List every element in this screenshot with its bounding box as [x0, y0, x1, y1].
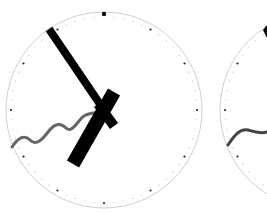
tick-mark: [183, 62, 185, 64]
twelve-marker-icon: [102, 12, 106, 16]
tick-mark: [158, 185, 159, 186]
tick-mark: [94, 202, 95, 203]
tick-mark: [113, 202, 114, 203]
tick-mark: [194, 90, 195, 91]
tick-mark: [196, 119, 197, 120]
tick-mark: [10, 109, 12, 111]
tick-mark: [226, 129, 227, 130]
tick-mark: [149, 28, 151, 30]
tick-mark: [132, 21, 133, 22]
tick-mark: [66, 24, 67, 25]
tick-mark: [11, 119, 12, 120]
tick-mark: [56, 189, 58, 191]
tick-mark: [22, 155, 24, 157]
tick-mark: [255, 179, 256, 180]
tick-mark: [173, 172, 174, 173]
tick-mark: [75, 21, 76, 22]
tick-mark: [66, 194, 67, 195]
tick-mark: [132, 198, 133, 199]
tick-mark: [229, 81, 230, 82]
tick-mark: [263, 34, 264, 35]
tick-mark: [232, 72, 233, 73]
tick-mark: [56, 28, 58, 30]
tick-mark: [196, 109, 198, 111]
tick-mark: [141, 194, 142, 195]
tick-mark: [224, 109, 226, 111]
tick-mark: [242, 164, 243, 165]
tick-mark: [225, 100, 226, 101]
clock-face-2: [220, 12, 267, 208]
tick-mark: [34, 47, 35, 48]
tick-mark: [232, 147, 233, 148]
tick-mark: [229, 138, 230, 139]
tick-mark: [34, 172, 35, 173]
tick-mark: [166, 179, 167, 180]
tick-mark: [149, 189, 151, 191]
tick-mark: [236, 62, 238, 64]
tick-mark: [18, 72, 19, 73]
tick-mark: [75, 198, 76, 199]
tick-mark: [41, 40, 42, 41]
tick-mark: [28, 164, 29, 165]
tick-mark: [225, 119, 226, 120]
tick-mark: [236, 155, 238, 157]
tick-mark: [141, 24, 142, 25]
tick-mark: [183, 155, 185, 157]
tick-mark: [15, 81, 16, 82]
tick-mark: [158, 34, 159, 35]
tick-mark: [113, 17, 114, 18]
tick-mark: [22, 62, 24, 64]
tick-mark: [123, 18, 124, 19]
tick-mark: [192, 138, 193, 139]
clock-rim: [220, 12, 267, 208]
tick-mark: [248, 47, 249, 48]
tick-mark: [94, 17, 95, 18]
tick-mark: [166, 40, 167, 41]
tick-mark: [84, 200, 85, 201]
tick-mark: [12, 129, 13, 130]
tick-mark: [28, 55, 29, 56]
tick-mark: [242, 55, 243, 56]
tick-mark: [123, 200, 124, 201]
tick-mark: [179, 164, 180, 165]
tick-mark: [15, 138, 16, 139]
tick-mark: [188, 147, 189, 148]
tick-mark: [179, 55, 180, 56]
tick-mark: [173, 47, 174, 48]
tick-mark: [263, 185, 264, 186]
tick-mark: [41, 179, 42, 180]
clock-face-1: [6, 12, 202, 208]
tick-mark: [196, 100, 197, 101]
tick-mark: [192, 81, 193, 82]
tick-mark: [103, 202, 105, 204]
tick-mark: [248, 172, 249, 173]
tick-mark: [11, 100, 12, 101]
clock-scene: [0, 0, 267, 214]
tick-mark: [226, 90, 227, 91]
tick-mark: [12, 90, 13, 91]
tick-mark: [188, 72, 189, 73]
tick-mark: [18, 147, 19, 148]
tick-mark: [84, 18, 85, 19]
tick-mark: [194, 129, 195, 130]
tick-mark: [49, 185, 50, 186]
tick-mark: [255, 40, 256, 41]
